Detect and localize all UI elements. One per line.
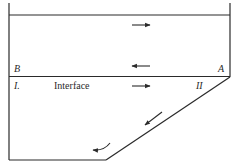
sloping-bottom-wall [106,77,230,160]
arrow-curved-left-bottom [93,143,110,150]
label-region-i: I. [13,80,20,91]
flow-diagram: B A I. Interface II [0,0,236,166]
label-interface: Interface [54,80,90,91]
arrow-down-left-diagonal [145,112,162,125]
label-point-b: B [14,63,20,74]
label-point-a: A [217,63,225,74]
label-region-ii: II [195,80,203,91]
